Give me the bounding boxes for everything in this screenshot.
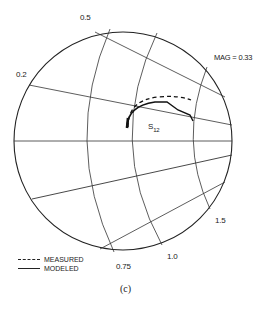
grid-line-05 [95,32,225,97]
grid-line-02 [29,85,232,125]
label-0-2: 0.2 [16,70,27,79]
figure-caption: (c) [120,283,131,294]
solid-line-icon [18,268,40,269]
label-0-5: 0.5 [80,13,91,22]
label-0-75: 0.75 [116,262,131,271]
s12-sub: 12 [153,127,159,133]
curve-label-s12: S12 [148,122,159,133]
grid-line-075 [100,182,225,249]
modeled-curve-start [127,118,128,128]
grid-line-lower [32,155,232,199]
legend-modeled-label: MODELED [44,265,79,272]
grid-arc-center [132,33,162,245]
label-1-0: 1.0 [167,252,178,261]
grid-arc-left [87,29,114,252]
label-mag: MAG = 0.33 [214,53,252,62]
legend-modeled: MODELED [18,265,79,272]
label-1-5: 1.5 [215,216,226,225]
legend-measured-label: MEASURED [44,256,84,263]
legend-measured: MEASURED [18,256,84,263]
dashed-line-icon [18,259,40,260]
